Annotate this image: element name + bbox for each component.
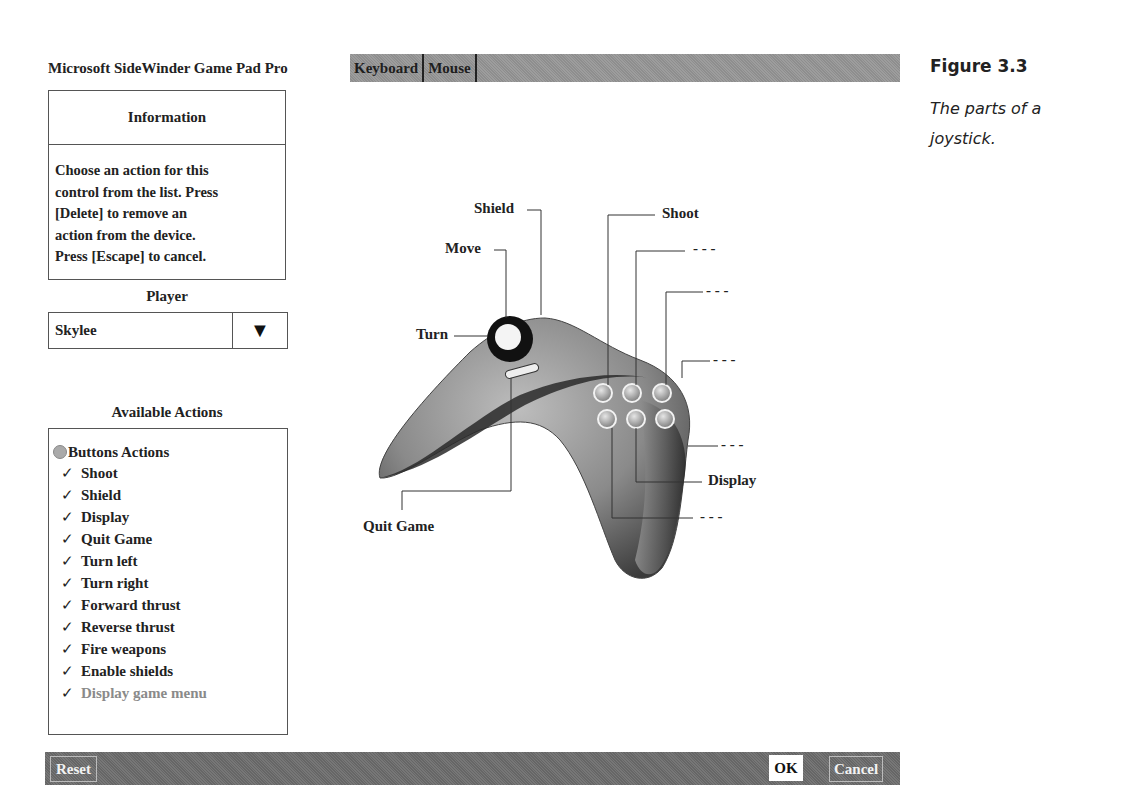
callout-quit-game: Quit Game — [363, 518, 434, 535]
callout-shoot: Shoot — [662, 205, 699, 222]
ok-button[interactable]: OK — [769, 755, 803, 781]
gamepad-body-icon — [379, 318, 689, 578]
callout-shield: Shield — [474, 200, 514, 217]
cancel-button[interactable]: Cancel — [829, 756, 883, 782]
callout-unassigned-3: - - - — [713, 351, 736, 368]
callout-move: Move — [445, 240, 481, 257]
callout-unassigned-1: - - - — [693, 240, 716, 257]
figure-title: Figure 3.3 — [930, 56, 1028, 76]
thumbstick-icon — [487, 316, 533, 362]
callout-display: Display — [708, 472, 756, 489]
callout-unassigned-2: - - - — [706, 282, 729, 299]
reset-button[interactable]: Reset — [50, 756, 97, 782]
callout-unassigned-5: - - - — [700, 508, 723, 525]
callout-unassigned-4: - - - — [721, 436, 744, 453]
figure-caption: The parts of a joystick. — [930, 94, 1100, 154]
callout-turn: Turn — [416, 326, 448, 343]
bottom-button-bar: Reset OK Cancel — [45, 752, 900, 785]
